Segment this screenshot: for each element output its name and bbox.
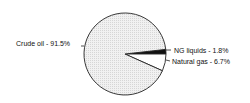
label-natural-gas: Natural gas - 6.7% [172,58,230,66]
label-ng-liquids: NG liquids - 1.8% [174,47,228,55]
label-crude-oil: Crude oil - 91.5% [16,40,70,48]
pie-slices [84,13,166,95]
